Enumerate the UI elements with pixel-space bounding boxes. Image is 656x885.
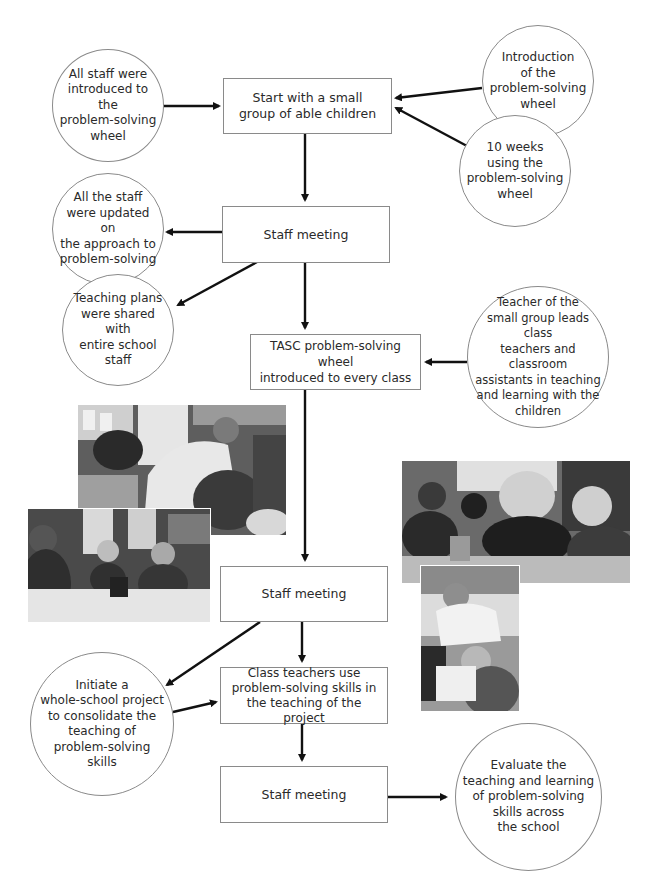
box-start-small-group: Start with a small group of able childre… (223, 78, 392, 134)
box-staff-meeting-1: Staff meeting (222, 206, 390, 263)
circle-staff-updated: All the staff were updated on the approa… (52, 173, 164, 285)
circle-label: All the staff were updated on the approa… (59, 190, 157, 268)
circle-label: Teacher of the small group leads class t… (474, 295, 602, 419)
circle-evaluate: Evaluate the teaching and learning of pr… (455, 723, 602, 871)
circle-label: All staff were introduced to the problem… (59, 67, 157, 145)
circle-whole-school-project: Initiate a whole-school project to conso… (30, 652, 174, 796)
box-label: Class teachers use problem-solving skill… (227, 666, 381, 726)
circle-ten-weeks: 10 weeks using the problem-solving wheel (459, 115, 571, 227)
circle-label: 10 weeks using the problem-solving wheel (467, 140, 564, 202)
arrow-initiate-to-class-teachers (173, 702, 216, 712)
circle-all-staff-introduced: All staff were introduced to the problem… (52, 49, 164, 162)
circle-label: Introduction of the problem-solving whee… (490, 50, 587, 112)
circle-label: Teaching plans were shared with entire s… (69, 291, 167, 369)
circle-teaching-plans: Teaching plans were shared with entire s… (62, 274, 174, 386)
box-class-teachers: Class teachers use problem-solving skill… (220, 667, 388, 724)
box-label: Staff meeting (264, 227, 349, 243)
box-label: Staff meeting (262, 787, 347, 803)
arrow-ten-weeks-to-start (396, 108, 467, 146)
box-staff-meeting-3: Staff meeting (220, 766, 388, 823)
box-tasc-wheel: TASC problem-solving wheel introduced to… (250, 334, 421, 390)
circle-label: Initiate a whole-school project to conso… (40, 678, 164, 771)
arrow-staff-meeting-to-teaching-plans (178, 262, 257, 305)
box-label: Start with a small group of able childre… (239, 90, 376, 122)
arrow-introduction-to-start (396, 88, 482, 98)
box-staff-meeting-2: Staff meeting (220, 566, 388, 622)
circle-teacher-small-group: Teacher of the small group leads class t… (467, 286, 609, 428)
box-label: Staff meeting (262, 586, 347, 602)
circle-label: Evaluate the teaching and learning of pr… (463, 758, 594, 836)
box-label: TASC problem-solving wheel introduced to… (257, 338, 414, 386)
